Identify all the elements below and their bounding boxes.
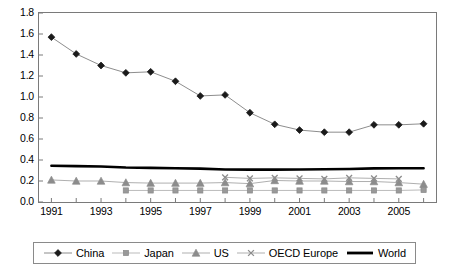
legend-label: OECD Europe: [269, 248, 338, 259]
x-axis-tick-label: 1995: [139, 205, 162, 217]
y-axis-tick-label: 1.6: [0, 28, 34, 39]
x-axis-tick-label: 2001: [288, 205, 311, 217]
y-axis-tick-label: 1.2: [0, 70, 34, 81]
thick-line-icon: [345, 246, 375, 260]
y-axis-tick-label: 0.4: [0, 154, 34, 165]
triangle-marker-icon: [181, 246, 211, 260]
legend-label: US: [214, 248, 229, 259]
x-axis-tick-label: 1999: [239, 205, 262, 217]
legend-label: World: [378, 248, 406, 259]
y-axis-tick-label: 1.8: [0, 7, 34, 18]
y-axis: 0.00.20.40.60.81.01.21.41.61.8: [0, 0, 36, 271]
x-axis-tick-label: 2003: [338, 205, 361, 217]
diamond-marker-icon: [43, 246, 73, 260]
legend-label: Japan: [144, 248, 173, 259]
legend-item[interactable]: Japan: [111, 246, 173, 260]
chart-legend: ChinaJapanUSOECD EuropeWorld: [33, 242, 416, 264]
x-axis-tick-label: 1993: [90, 205, 113, 217]
square-marker-icon: [111, 246, 141, 260]
legend-label: China: [76, 248, 104, 259]
x-axis-tick-label: 2005: [388, 205, 411, 217]
x-marker-icon: [236, 246, 266, 260]
x-axis: 19911993199519971999200120032005: [0, 205, 449, 223]
chart-container: 0.00.20.40.60.81.01.21.41.61.8 199119931…: [0, 0, 449, 271]
legend-item[interactable]: World: [345, 246, 406, 260]
series-layer: [39, 13, 436, 202]
y-axis-tick-label: 0.8: [0, 112, 34, 123]
y-axis-tick-label: 0.6: [0, 133, 34, 144]
y-axis-tick-label: 1.0: [0, 91, 34, 102]
x-axis-tick-label: 1997: [189, 205, 212, 217]
y-axis-tick-label: 0.2: [0, 175, 34, 186]
y-axis-tick-label: 1.4: [0, 49, 34, 60]
plot-area: [38, 12, 437, 203]
legend-item[interactable]: US: [181, 246, 229, 260]
legend-item[interactable]: OECD Europe: [236, 246, 338, 260]
x-axis-tick-label: 1991: [40, 205, 63, 217]
legend-item[interactable]: China: [43, 246, 104, 260]
